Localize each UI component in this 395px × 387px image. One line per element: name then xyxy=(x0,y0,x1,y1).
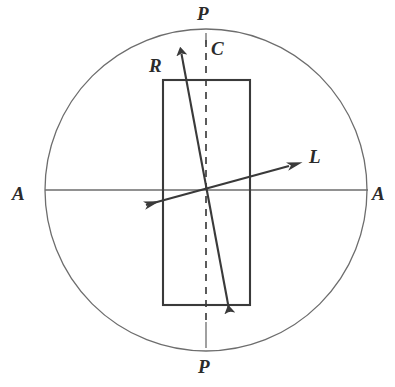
diagram-canvas: P P A A C R L xyxy=(0,0,395,387)
label-p-top: P xyxy=(197,4,209,23)
label-c: C xyxy=(211,39,224,58)
label-p-bottom: P xyxy=(198,357,210,376)
crystal-orientation-diagram xyxy=(0,0,395,387)
label-a-left: A xyxy=(12,184,25,203)
label-l: L xyxy=(309,147,321,166)
label-a-right: A xyxy=(372,184,385,203)
vector-l-line xyxy=(146,166,289,205)
label-r: R xyxy=(149,56,162,75)
